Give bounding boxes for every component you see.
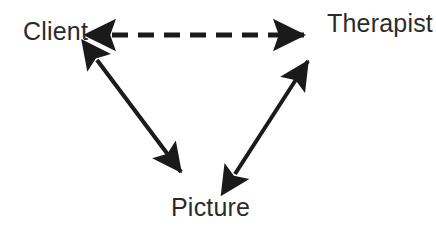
connector-client-picture xyxy=(97,60,181,172)
node-label-picture: Picture xyxy=(171,195,250,220)
node-label-client: Client xyxy=(23,19,88,44)
connector-picture-therapist xyxy=(235,61,308,174)
diagram-canvas: Client Therapist Picture xyxy=(0,0,436,233)
node-label-therapist: Therapist xyxy=(327,11,433,36)
